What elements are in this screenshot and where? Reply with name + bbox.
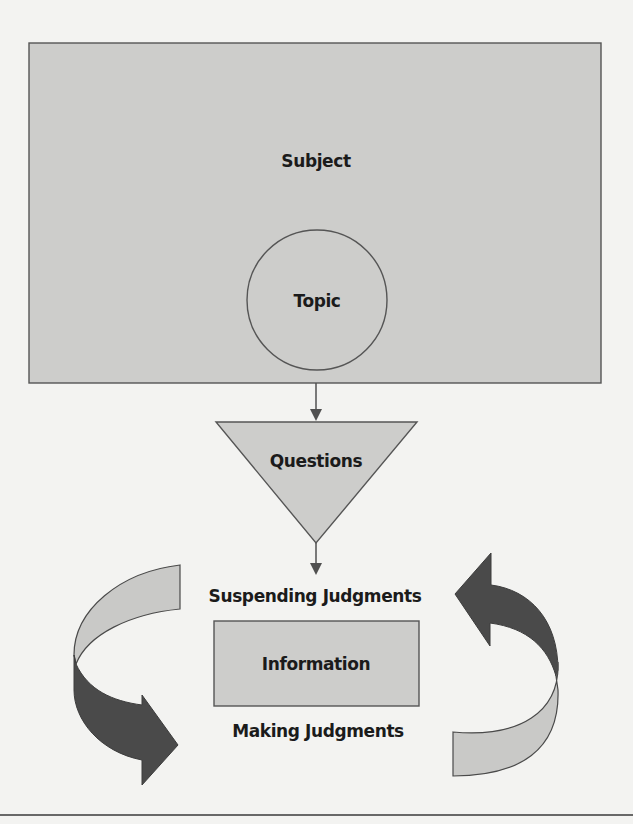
- subject-label: Subject: [281, 151, 351, 171]
- questions-triangle: [216, 422, 417, 543]
- right-arrow-light-band: [453, 662, 558, 776]
- information-node: Information: [214, 621, 419, 706]
- topic-node: Topic: [247, 230, 387, 370]
- topic-label: Topic: [293, 291, 340, 311]
- connector-questions-to-information: [310, 543, 322, 575]
- information-label: Information: [262, 654, 370, 674]
- left-cycle-arrow: [74, 565, 180, 785]
- questions-label: Questions: [270, 451, 363, 471]
- concept-flow-diagram: Subject Topic Questions Suspending Judgm…: [0, 0, 633, 824]
- arrow-down-icon: [310, 563, 322, 575]
- left-arrow-light-band: [74, 565, 180, 664]
- suspending-judgments-label: Suspending Judgments: [209, 586, 422, 606]
- connector-subject-to-questions: [310, 383, 322, 421]
- curved-arrow-down-icon: [74, 655, 178, 785]
- making-judgments-label: Making Judgments: [232, 721, 404, 741]
- questions-node: Questions: [216, 422, 417, 543]
- arrow-down-icon: [310, 409, 322, 421]
- curved-arrow-up-icon: [455, 553, 558, 676]
- right-cycle-arrow: [453, 553, 558, 776]
